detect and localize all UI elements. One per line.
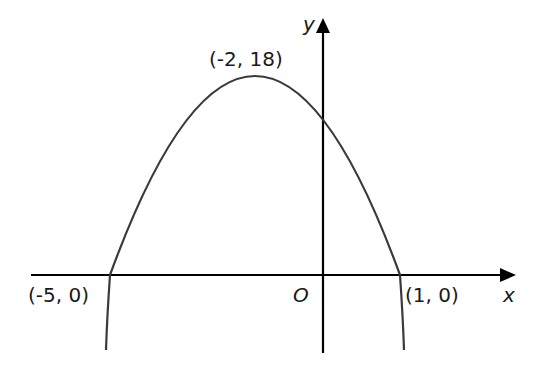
parabola-curve	[110, 76, 400, 275]
x-axis-arrow-icon	[500, 268, 516, 282]
y-axis-label: y	[303, 12, 315, 36]
vertex-label: (-2, 18)	[209, 47, 283, 71]
right-root-label: (1, 0)	[405, 283, 459, 307]
origin-label: O	[293, 283, 309, 307]
parabola-right-tail	[400, 275, 404, 350]
parabola-left-tail	[106, 275, 110, 350]
x-axis-label: x	[503, 283, 515, 307]
left-root-label: (-5, 0)	[28, 283, 89, 307]
y-axis-arrow-icon	[316, 18, 330, 33]
